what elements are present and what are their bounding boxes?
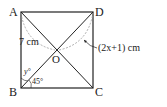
length-label-ao: 7 cm: [19, 36, 39, 47]
vertex-label-c: C: [95, 85, 103, 99]
angle-label-y: y°: [23, 67, 32, 76]
vertex-label-b: B: [9, 85, 17, 99]
angle-arc-45: [29, 80, 31, 88]
length-label-do: (2x+1) cm: [98, 42, 140, 54]
vertex-label-a: A: [9, 5, 18, 19]
angle-label-45: 45°: [32, 77, 43, 86]
dashed-arc-do: [59, 13, 93, 50]
geometry-figure: A D B C O 7 cm (2x+1) cm y° 45°: [0, 0, 167, 107]
angle-arc-y: [21, 78, 28, 81]
vertex-label-d: D: [95, 5, 104, 19]
vertex-label-o: O: [52, 53, 60, 65]
